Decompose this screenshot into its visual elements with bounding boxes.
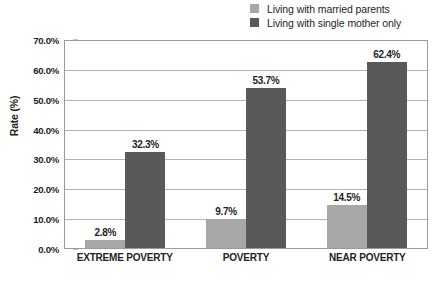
x-axis-tick-label: NEAR POVERTY xyxy=(307,252,428,263)
bar-value-label: 32.3% xyxy=(132,139,159,150)
bar-value-label: 14.5% xyxy=(333,192,360,203)
bar-value-label: 62.4% xyxy=(373,49,400,60)
x-axis-tick-labels: EXTREME POVERTYPOVERTYNEAR POVERTY xyxy=(64,252,428,263)
y-axis-tick-labels: 70.0%60.0%50.0%40.0%30.0%20.0%10.0%0.0% xyxy=(14,40,59,249)
bar-value-label: 2.8% xyxy=(95,227,117,238)
bar-group: 14.5%62.4% xyxy=(306,41,427,248)
bar-value-label: 9.7% xyxy=(215,206,237,217)
y-axis-tick-label: 0.0% xyxy=(14,244,59,255)
bar[interactable]: 53.7% xyxy=(246,88,286,248)
bar[interactable]: 14.5% xyxy=(327,205,367,248)
legend-swatch-single-mother xyxy=(250,18,259,27)
bar-groups: 2.8%32.3%9.7%53.7%14.5%62.4% xyxy=(65,41,427,248)
legend-item-single-mother: Living with single mother only xyxy=(250,16,448,29)
bar[interactable]: 2.8% xyxy=(85,240,125,248)
bar[interactable]: 62.4% xyxy=(367,62,407,248)
legend-label-single-mother: Living with single mother only xyxy=(267,17,401,29)
y-axis-tick-label: 30.0% xyxy=(14,154,59,165)
legend-item-married-parents: Living with married parents xyxy=(250,2,448,15)
x-axis-tick-label: POVERTY xyxy=(185,252,306,263)
bar[interactable]: 32.3% xyxy=(125,152,165,248)
y-axis-tick-label: 60.0% xyxy=(14,64,59,75)
x-axis-tick-label: EXTREME POVERTY xyxy=(64,252,185,263)
y-axis-tick-label: 50.0% xyxy=(14,94,59,105)
bar-group: 2.8%32.3% xyxy=(65,41,186,248)
chart-legend: Living with married parents Living with … xyxy=(250,2,448,30)
y-axis-tick-label: 70.0% xyxy=(14,35,59,46)
y-axis-tick-label: 20.0% xyxy=(14,184,59,195)
bar-group: 9.7%53.7% xyxy=(186,41,307,248)
plot-area: 2.8%32.3%9.7%53.7%14.5%62.4% xyxy=(64,40,428,249)
bar-value-label: 53.7% xyxy=(253,75,280,86)
legend-label-married-parents: Living with married parents xyxy=(267,3,390,15)
legend-swatch-married-parents xyxy=(250,4,259,13)
bar[interactable]: 9.7% xyxy=(206,219,246,248)
y-axis-tick-label: 40.0% xyxy=(14,124,59,135)
y-axis-tick-label: 10.0% xyxy=(14,214,59,225)
